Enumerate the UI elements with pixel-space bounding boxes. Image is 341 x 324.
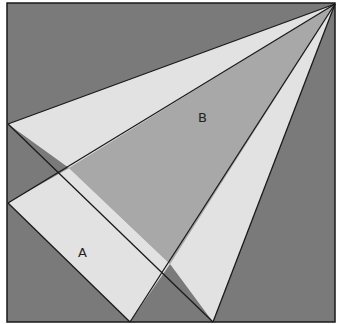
geometry-diagram: B A: [0, 0, 341, 324]
label-b: B: [198, 110, 207, 125]
label-a: A: [78, 245, 87, 260]
